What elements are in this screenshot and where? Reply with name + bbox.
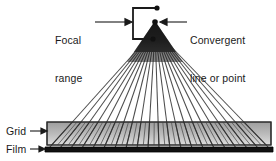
film-arrowhead: [39, 146, 45, 152]
focal-far-dot: [154, 5, 159, 10]
convergent-point-dot: [152, 19, 158, 25]
film-bar: [45, 147, 273, 152]
focal-range-arrowhead: [125, 19, 132, 25]
convergent-arrowhead: [160, 19, 167, 25]
label-focal-range-line2: range: [55, 72, 82, 85]
label-convergent-line1: Convergent: [190, 34, 246, 47]
grid-arrowhead: [41, 128, 47, 134]
label-focal-range: Focal range: [55, 9, 82, 109]
label-film: Film: [6, 143, 26, 156]
focal-near-dot: [150, 36, 155, 41]
label-convergent-line2: line or point: [190, 72, 246, 85]
diagram-canvas: Focal range Convergent line or point Gri…: [0, 0, 276, 161]
label-focal-range-line1: Focal: [55, 34, 82, 47]
convergent-beam-cone-lower: [127, 21, 183, 62]
label-convergent-point: Convergent line or point: [190, 9, 246, 109]
label-grid: Grid: [6, 125, 26, 138]
